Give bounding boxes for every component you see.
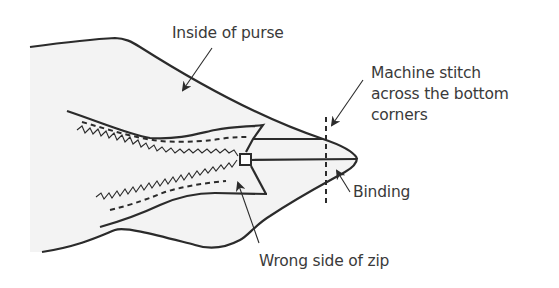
label-machine-stitch-line1: Machine stitch xyxy=(371,63,509,84)
label-machine-stitch-line3: corners xyxy=(371,105,509,126)
purse-fabric xyxy=(30,38,357,252)
label-wrong-side-of-zip: Wrong side of zip xyxy=(259,251,389,272)
label-inside-of-purse: Inside of purse xyxy=(172,23,284,44)
binding-tab xyxy=(251,159,357,160)
label-machine-stitch-line2: across the bottom xyxy=(371,84,509,105)
label-machine-stitch: Machine stitch across the bottom corners xyxy=(371,63,509,126)
zip-stop xyxy=(240,154,251,165)
machine-stitch-arrow xyxy=(332,80,363,125)
binding-arrow xyxy=(337,171,350,192)
label-binding: Binding xyxy=(353,182,410,203)
